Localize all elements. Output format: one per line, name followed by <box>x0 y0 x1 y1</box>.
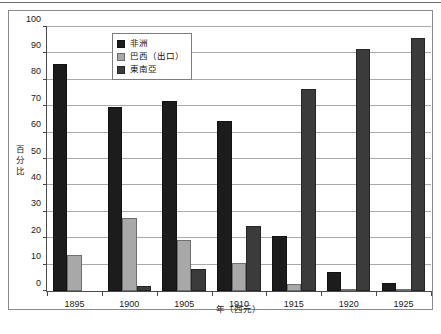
bar <box>246 226 261 291</box>
y-axis-title: 百分比 <box>15 144 26 177</box>
bar <box>341 289 356 291</box>
page-top-rule <box>0 2 441 3</box>
bar <box>327 272 342 291</box>
bar-group <box>266 27 321 291</box>
bar <box>162 101 177 291</box>
bar-group <box>212 27 267 291</box>
legend-label-brazil: 巴西（出口） <box>130 52 184 61</box>
y-tick-label: 70 <box>31 93 41 102</box>
bar <box>272 236 287 291</box>
y-tick-label: 20 <box>31 225 41 234</box>
x-tick-mark <box>47 291 48 296</box>
plot-area: 0102030405060708090100 18951900190519101… <box>46 27 431 292</box>
bar <box>411 38 426 291</box>
x-tick-mark <box>212 291 213 296</box>
y-tick-label: 50 <box>31 146 41 155</box>
bar <box>382 283 397 291</box>
y-tick-label: 30 <box>31 199 41 208</box>
bar <box>287 284 302 291</box>
bar <box>191 269 206 291</box>
bar <box>217 121 232 291</box>
x-tick-mark <box>376 291 377 296</box>
chart-frame: 百分比 0102030405060708090100 1895190019051… <box>8 10 433 310</box>
y-tick-label: 80 <box>31 67 41 76</box>
y-tick-label: 100 <box>26 14 41 23</box>
x-tick-mark <box>157 291 158 296</box>
bar <box>67 255 82 291</box>
legend-item: 非洲 <box>117 37 184 50</box>
legend-label-southeast-asia: 東南亞 <box>130 65 157 74</box>
legend-label-africa: 非洲 <box>130 39 148 48</box>
chart-legend: 非洲 巴西（出口） 東南亞 <box>112 33 192 80</box>
y-tick-label: 90 <box>31 40 41 49</box>
bar-group <box>376 27 431 291</box>
x-tick-mark <box>321 291 322 296</box>
bar <box>356 49 371 291</box>
x-tick-mark <box>102 291 103 296</box>
legend-item: 巴西（出口） <box>117 50 184 63</box>
y-tick-label: 0 <box>36 278 41 287</box>
y-tick-label: 10 <box>31 252 41 261</box>
x-axis-title: 年（西元） <box>46 302 430 314</box>
bar <box>177 240 192 291</box>
bar-group <box>321 27 376 291</box>
bar <box>396 289 411 291</box>
legend-swatch-brazil <box>117 53 125 61</box>
bar <box>232 263 247 291</box>
bar <box>301 89 316 291</box>
legend-swatch-africa <box>117 40 125 48</box>
legend-swatch-southeast-asia <box>117 66 125 74</box>
chart-figure: 百分比 0102030405060708090100 1895190019051… <box>0 0 441 334</box>
y-tick-label: 40 <box>31 172 41 181</box>
x-tick-mark <box>266 291 267 296</box>
bar <box>137 286 152 291</box>
bar <box>53 64 68 291</box>
legend-item: 東南亞 <box>117 63 184 76</box>
y-tick-label: 60 <box>31 120 41 129</box>
bar <box>122 218 137 291</box>
bar-group <box>47 27 102 291</box>
x-tick-mark <box>431 291 432 296</box>
bar <box>108 107 123 291</box>
